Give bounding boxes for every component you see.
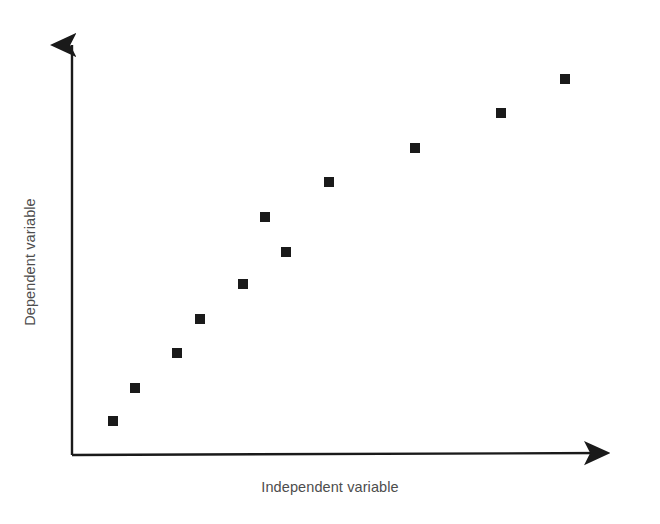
scatter-plot-figure: Dependent variable Independent variable xyxy=(0,0,660,524)
data-point-marker xyxy=(195,314,205,324)
plot-canvas xyxy=(0,0,660,524)
y-axis-label: Dependent variable xyxy=(22,198,38,326)
data-point-marker xyxy=(172,348,182,358)
data-point-marker xyxy=(281,247,291,257)
data-point-marker xyxy=(130,383,140,393)
data-point-marker xyxy=(260,212,270,222)
x-axis-line xyxy=(72,453,606,455)
data-point-marker xyxy=(496,108,506,118)
data-point-marker xyxy=(410,143,420,153)
data-point-marker xyxy=(560,74,570,84)
x-axis-label: Independent variable xyxy=(0,479,660,495)
axes xyxy=(72,45,606,455)
data-point-marker xyxy=(324,177,334,187)
data-point-marker xyxy=(238,279,248,289)
data-point-marker xyxy=(108,416,118,426)
data-point-markers xyxy=(108,74,570,426)
y-axis-label-container: Dependent variable xyxy=(0,0,60,524)
